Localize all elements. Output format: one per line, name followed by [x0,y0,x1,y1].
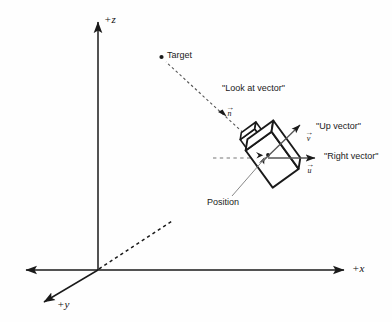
target-label: Target [167,51,192,60]
target-dot-icon [159,55,163,59]
vector-symbol-v: v [307,134,311,143]
up-vector-label: "Up vector" [316,122,361,131]
axis-y-negative-dashed [99,221,172,269]
up-vector-symbol: → v [305,131,312,143]
position-leader-line [232,157,266,196]
vector-symbol-u: u [308,166,312,175]
vector-symbol-n: n [228,109,232,118]
camera-icon [236,113,305,187]
diagram-canvas: +z +x +y Target "Look at vector" → n "Up… [0,0,392,322]
axis-y [44,270,98,302]
diagram-vector-graphics [0,0,392,322]
axis-label-z: +z [104,14,116,25]
position-label: Position [207,198,239,207]
look-at-vector-symbol: → n [226,106,233,118]
axis-label-x: +x [352,263,364,274]
axis-label-y: +y [57,299,69,310]
look-at-vector-label: "Look at vector" [222,84,285,93]
right-vector-label: "Right vector" [324,152,378,161]
right-vector-symbol: → u [306,163,313,175]
